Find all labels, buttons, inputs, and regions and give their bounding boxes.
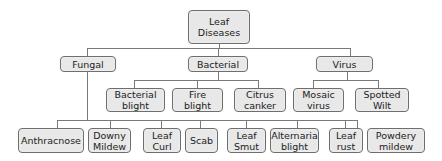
connector-to-fungal: [87, 48, 88, 56]
connector-to-powdery-mildew: [357, 120, 358, 128]
connector-to-citrus-canker: [258, 80, 259, 88]
connector-level1-bar: [87, 48, 351, 49]
connector-to-leaf-curl: [161, 120, 162, 128]
connector-to-leaf-smut: [246, 120, 247, 128]
node-scab: Scab: [185, 128, 218, 153]
connector-bacterial-bar: [134, 80, 258, 81]
node-virus: Virus: [316, 56, 373, 72]
connector-to-mosaic-virus: [313, 80, 314, 88]
node-fire-blight: Fire blight: [172, 88, 223, 112]
connector-to-bacterial-blight: [134, 80, 135, 88]
connector-to-virus: [350, 48, 351, 56]
node-powdery-mildew: Powdery mildew: [367, 128, 425, 153]
connector-to-bacterial: [218, 48, 219, 56]
connector-to-alternaria-blight: [297, 120, 298, 128]
node-leaf-diseases: Leaf Diseases: [188, 10, 250, 44]
node-leaf-smut: Leaf Smut: [227, 128, 266, 153]
connector-to-downy-mildew: [110, 120, 111, 128]
connector-fungal-bar: [57, 120, 357, 121]
node-mosaic-virus: Mosaic virus: [293, 88, 344, 112]
connector-virus-bar: [313, 80, 378, 81]
connector-to-fire-blight: [197, 80, 198, 88]
node-citrus-canker: Citrus canker: [234, 88, 286, 112]
node-bacterial: Bacterial: [188, 56, 248, 72]
node-leaf-curl: Leaf Curl: [143, 128, 181, 153]
node-alternaria-blight: Alternaria blight: [270, 128, 319, 153]
connector-to-leaf-rust: [345, 120, 346, 128]
connector-to-anthracnose: [57, 120, 58, 128]
node-leaf-rust: Leaf rust: [329, 128, 363, 153]
node-bacterial-blight: Bacterial blight: [106, 88, 165, 112]
connector-to-spotted-wilt: [378, 80, 379, 88]
node-anthracnose: Anthracnose: [18, 128, 84, 153]
connector-fungal-down: [87, 72, 88, 121]
node-spotted-wilt: Spotted Wilt: [355, 88, 409, 112]
node-downy-mildew: Downy Mildew: [88, 128, 131, 153]
connector-to-scab: [200, 120, 201, 128]
node-fungal: Fungal: [60, 56, 116, 72]
